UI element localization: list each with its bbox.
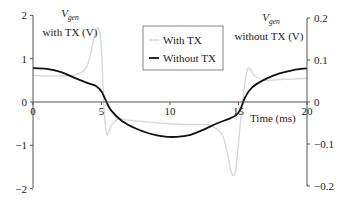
- left-y-tick-label: −1: [15, 139, 27, 151]
- left-y-tick-label: 2: [22, 9, 28, 21]
- x-tick-label: 0: [30, 105, 36, 117]
- x-tick-label: 5: [99, 105, 105, 117]
- x-tick-label: 20: [302, 105, 314, 117]
- svg-text:Vgen: Vgen: [262, 11, 280, 26]
- svg-text:Vgen: Vgen: [61, 7, 79, 22]
- svg-text:without TX (V): without TX (V): [235, 30, 304, 43]
- left-axis-label: Vgen with TX (V): [43, 7, 98, 39]
- right-y-tick-label: 0: [314, 96, 320, 108]
- svg-text:with TX (V): with TX (V): [43, 26, 98, 39]
- right-axis-label: Vgen without TX (V): [235, 11, 304, 43]
- right-y-tick-label: −0.1: [314, 138, 334, 150]
- chart: 05101520210−1−20.20.10−0.1−0.2 Vgen with…: [0, 0, 348, 202]
- x-tick-label: 10: [165, 105, 177, 117]
- left-y-tick-label: 1: [22, 53, 28, 65]
- left-y-tick-label: −2: [15, 183, 27, 195]
- left-y-tick-label: 0: [22, 96, 28, 108]
- x-axis-label: Time (ms): [250, 112, 296, 125]
- right-y-tick-label: −0.2: [314, 180, 334, 192]
- legend-label-with-tx: With TX: [163, 34, 202, 46]
- right-y-tick-label: 0.2: [314, 12, 328, 24]
- legend: With TX Without TX: [143, 26, 223, 70]
- right-y-tick-label: 0.1: [314, 54, 328, 66]
- legend-label-without-tx: Without TX: [163, 52, 216, 64]
- x-tick-label: 15: [233, 105, 245, 117]
